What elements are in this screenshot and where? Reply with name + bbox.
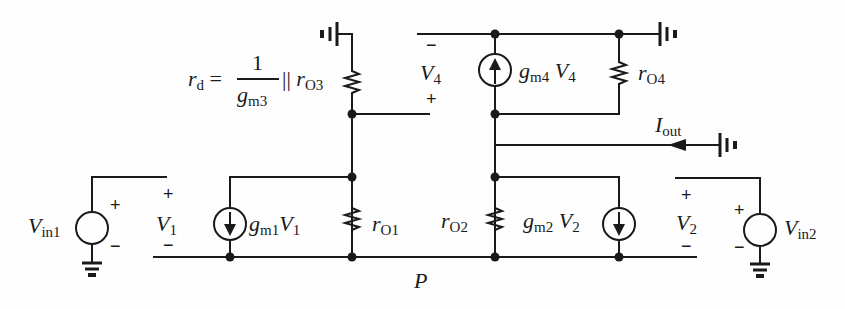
V2-symbol: V: [676, 210, 689, 235]
Vin1-minus-sign: −: [110, 236, 121, 256]
gm1-subscript: m1: [260, 222, 279, 238]
label-node-P: P: [414, 270, 427, 292]
rO3-symbol: r: [296, 66, 305, 91]
V4-plus-sign: +: [426, 89, 437, 109]
resistor-rO4: [612, 60, 626, 86]
ground-icon-Vin1: [82, 263, 102, 275]
label-V4: V4: [420, 62, 441, 87]
V1-symbol: V: [156, 211, 169, 236]
gm2-V-subscript: 2: [572, 219, 580, 235]
gm1-V-symbol: V: [279, 211, 292, 236]
rO2-subscript: O2: [450, 219, 468, 235]
V4-minus-sign: −: [426, 35, 437, 55]
gm4-symbol: g: [519, 58, 530, 83]
rO2-symbol: r: [441, 208, 450, 233]
parallel-symbol: ||: [282, 66, 291, 91]
ground-icon-Vin2: [750, 264, 770, 276]
gm4-V-symbol: V: [555, 58, 568, 83]
wire-rO4-bottom: [495, 86, 619, 114]
rO4-symbol: r: [638, 60, 647, 85]
label-V2-plus: +: [681, 186, 692, 204]
Vin2-plus-sign: +: [734, 200, 745, 220]
circuit-schematic: [0, 0, 845, 309]
ground-icon-Iout: [720, 133, 735, 157]
V4-subscript: 4: [433, 71, 441, 87]
wire-gm2-top: [495, 177, 619, 208]
label-fraction-numerator: 1: [252, 52, 263, 74]
Vin1-plus-sign: +: [110, 195, 121, 215]
V2-subscript: 2: [689, 221, 697, 237]
wire-rO3-top: [337, 34, 352, 68]
label-Iout: Iout: [655, 114, 682, 139]
fraction-gm3-subscript: m3: [248, 93, 267, 109]
resistor-rO3: [345, 68, 359, 96]
Iout-subscript: out: [662, 123, 681, 139]
label-V2-minus: −: [681, 237, 692, 255]
V1-minus-sign: −: [163, 235, 174, 255]
label-V1-plus: +: [163, 185, 174, 203]
gm1-symbol: g: [249, 211, 260, 236]
voltage-source-Vin1: [76, 212, 108, 244]
label-Vin1-plus: +: [110, 196, 121, 214]
gm4-subscript: m4: [530, 69, 549, 85]
label-V4-plus: +: [426, 90, 437, 108]
gm1-V-subscript: 1: [293, 222, 301, 238]
label-rO1: rO1: [372, 213, 399, 238]
Vin2-minus-sign: −: [734, 237, 745, 257]
gm2-V-symbol: V: [559, 208, 572, 233]
V1-plus-sign: +: [163, 184, 174, 204]
rO1-subscript: O1: [381, 222, 399, 238]
circuit-diagram: rd = 1 gm3 || rO3 − V4 + gm4 V4 rO4 Iout…: [0, 0, 845, 309]
V4-symbol: V: [420, 60, 433, 85]
Vin2-symbol: V: [784, 215, 797, 240]
label-rd: rd =: [188, 68, 222, 93]
current-source-gm1V1: [214, 208, 246, 240]
ground-icon-top-right: [660, 22, 675, 46]
label-Vin2-plus: +: [734, 201, 745, 219]
fraction-bar: [237, 78, 279, 80]
label-fraction-denominator: gm3: [237, 84, 267, 109]
fraction-gm3-symbol: g: [237, 82, 248, 107]
label-gm4V4: gm4 V4: [519, 60, 576, 85]
label-rO2: rO2: [441, 210, 468, 235]
label-equals: =: [210, 66, 222, 91]
current-source-gm4V4: [479, 54, 511, 86]
label-V2: V2: [676, 212, 697, 237]
ground-icon-top-left: [322, 22, 337, 46]
wire-Vin1-top: [92, 177, 167, 212]
V2-minus-sign: −: [681, 236, 692, 256]
label-Vin1-minus: −: [110, 237, 121, 255]
current-source-gm2V2: [603, 208, 635, 240]
fraction-numerator: 1: [252, 50, 263, 75]
voltage-source-Vin2: [744, 214, 776, 246]
gm2-subscript: m2: [534, 219, 553, 235]
Vin2-subscript: in2: [797, 226, 816, 242]
rO4-subscript: O4: [647, 71, 665, 87]
label-parallel-rO3: || rO3: [282, 68, 323, 93]
rO3-subscript: O3: [305, 77, 323, 93]
gm4-V-subscript: 4: [568, 69, 576, 85]
label-gm1V1: gm1V1: [249, 213, 300, 238]
Vin1-symbol: V: [28, 213, 41, 238]
label-Vin1: Vin1: [28, 215, 61, 240]
V2-plus-sign: +: [681, 185, 692, 205]
gm2-symbol: g: [523, 208, 534, 233]
rO1-symbol: r: [372, 211, 381, 236]
arrow-icon-Iout: [668, 139, 686, 151]
wire-gm1-top: [230, 177, 352, 208]
node-P-text: P: [414, 268, 427, 293]
label-rd-subscript: d: [197, 77, 205, 93]
Vin1-subscript: in1: [41, 224, 60, 240]
label-rd-symbol: r: [188, 66, 197, 91]
label-gm2V2: gm2 V2: [523, 210, 580, 235]
label-V1-minus: −: [163, 236, 174, 254]
label-Vin2-minus: −: [734, 238, 745, 256]
label-V4-minus: −: [426, 36, 437, 54]
label-Vin2: Vin2: [784, 217, 817, 242]
label-rO4: rO4: [638, 62, 665, 87]
